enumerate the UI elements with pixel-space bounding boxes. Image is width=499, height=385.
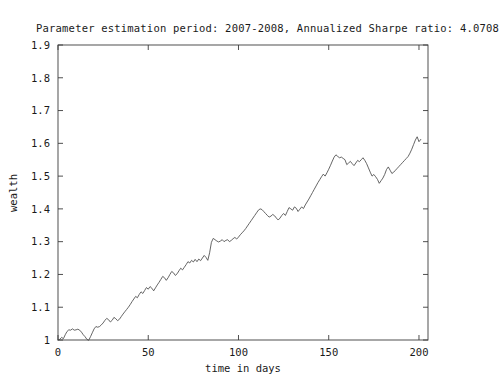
y-axis-ticks (58, 45, 428, 340)
y-axis-title: wealth (7, 174, 19, 212)
x-axis-ticks (58, 45, 419, 340)
y-tick-label: 1.1 (31, 301, 50, 313)
y-tick-label: 1.7 (31, 104, 50, 116)
x-tick-label: 200 (409, 346, 428, 358)
wealth-line (58, 137, 421, 341)
y-tick-label: 1 (44, 334, 50, 346)
y-tick-label: 1.6 (31, 137, 50, 149)
x-axis-tick-labels: 050100150200 (55, 346, 429, 358)
y-tick-label: 1.5 (31, 170, 50, 182)
y-tick-label: 1.2 (31, 268, 50, 280)
plot-frame (58, 45, 428, 340)
x-tick-label: 0 (55, 346, 61, 358)
y-tick-label: 1.8 (31, 72, 50, 84)
x-tick-label: 150 (319, 346, 338, 358)
x-axis-title: time in days (205, 362, 281, 374)
y-axis-tick-labels: 11.11.21.31.41.51.61.71.81.9 (31, 39, 50, 346)
y-tick-label: 1.9 (31, 39, 50, 51)
y-tick-label: 1.3 (31, 235, 50, 247)
y-tick-label: 1.4 (31, 203, 50, 215)
x-tick-label: 100 (229, 346, 248, 358)
x-tick-label: 50 (142, 346, 155, 358)
